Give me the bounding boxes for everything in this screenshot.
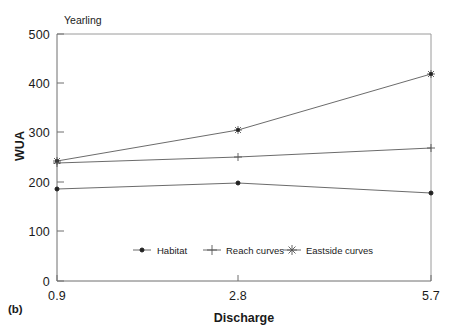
x-tick-label-5-7: 5.7 [422, 289, 440, 303]
wua-discharge-line-chart: 500 400 300 200 100 0 0.9 2.8 5.7 WUA Di… [0, 0, 450, 328]
series-line-eastside [57, 74, 431, 161]
x-tick-label-0-9: 0.9 [48, 289, 66, 303]
legend-marker-plus-icon [207, 245, 217, 255]
marker-habitat-0-9 [55, 187, 59, 191]
y-tick-label-100: 100 [29, 225, 50, 239]
series-line-reach [57, 148, 431, 163]
series-reach-curves [53, 144, 435, 167]
y-tick-label-300: 300 [29, 126, 50, 140]
figure-panel-b: 500 400 300 200 100 0 0.9 2.8 5.7 WUA Di… [0, 0, 450, 328]
series-habitat [55, 181, 433, 195]
legend-item-reach-curves: Reach curves [203, 245, 284, 256]
y-axis-title: WUA [13, 131, 27, 161]
y-tick-labels: 500 400 300 200 100 0 [29, 28, 50, 289]
plot-frame [57, 34, 431, 281]
legend-label-habitat: Habitat [157, 245, 187, 256]
panel-letter: (b) [8, 303, 23, 315]
x-axis-title: Discharge [214, 311, 274, 325]
y-tick-label-0: 0 [43, 275, 50, 289]
y-axis-ticks [57, 34, 64, 281]
x-tick-labels: 0.9 2.8 5.7 [48, 289, 440, 303]
legend-label-eastside-curves: Eastside curves [306, 245, 373, 256]
y-tick-label-400: 400 [29, 77, 50, 91]
x-axis-ticks [57, 275, 431, 281]
legend-item-eastside-curves: Eastside curves [283, 245, 373, 256]
legend-marker-dot-icon [140, 248, 144, 252]
legend-marker-star-icon [287, 245, 297, 255]
x-tick-label-2-8: 2.8 [229, 289, 247, 303]
chart-legend: Habitat Reach curves [133, 245, 373, 256]
marker-habitat-5-7 [429, 191, 433, 195]
marker-habitat-2-8 [236, 181, 240, 185]
series-markers-reach [53, 144, 435, 167]
panel-title: Yearling [64, 14, 102, 26]
legend-label-reach-curves: Reach curves [226, 245, 284, 256]
legend-item-habitat: Habitat [133, 245, 187, 256]
y-tick-label-500: 500 [29, 28, 50, 42]
series-line-habitat [57, 183, 431, 193]
y-tick-label-200: 200 [29, 176, 50, 190]
